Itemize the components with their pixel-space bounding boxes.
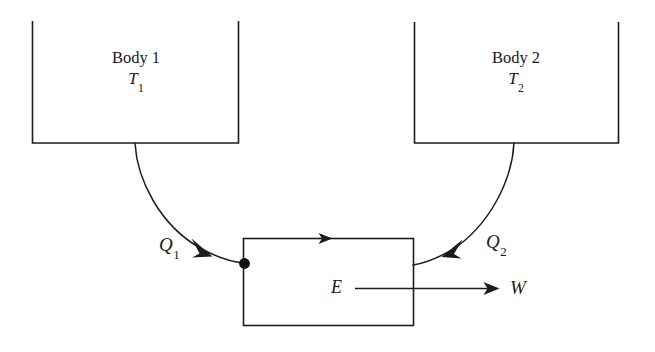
body-1-label: Body 1 T1 xyxy=(96,49,176,89)
body-2-temperature-symbol: T xyxy=(508,69,517,88)
q1-subscript: 1 xyxy=(173,247,179,262)
q2-subscript: 2 xyxy=(500,244,506,259)
q2-symbol: Q xyxy=(486,231,500,252)
q1-junction-dot xyxy=(239,258,250,269)
engine-box xyxy=(244,233,414,326)
q2-label: Q2 xyxy=(486,231,507,252)
q1-arrowhead xyxy=(192,239,213,258)
body-2-temperature-subscript: 2 xyxy=(518,82,524,95)
body-2-temperature: T2 xyxy=(476,69,556,88)
body-1-name: Body 1 xyxy=(96,49,176,67)
engine-outline xyxy=(244,239,414,326)
q1-label: Q1 xyxy=(159,234,180,255)
body-1-temperature: T1 xyxy=(96,69,176,88)
body-2-name: Body 2 xyxy=(476,49,556,67)
heat-engine-figure: Body 1 T1 Body 2 T2 Q1 Q2 E W xyxy=(0,0,655,352)
engine-label: E xyxy=(331,277,342,297)
q2-arrowhead xyxy=(442,240,463,259)
q1-curve xyxy=(135,143,244,263)
q1-flow-arrow xyxy=(135,143,244,263)
work-output-arrow xyxy=(355,282,500,295)
q1-symbol: Q xyxy=(159,234,173,255)
body-1-temperature-symbol: T xyxy=(128,69,137,88)
body-2-label: Body 2 T2 xyxy=(476,49,556,89)
work-label: W xyxy=(510,277,526,298)
body-1-temperature-subscript: 1 xyxy=(138,82,144,95)
